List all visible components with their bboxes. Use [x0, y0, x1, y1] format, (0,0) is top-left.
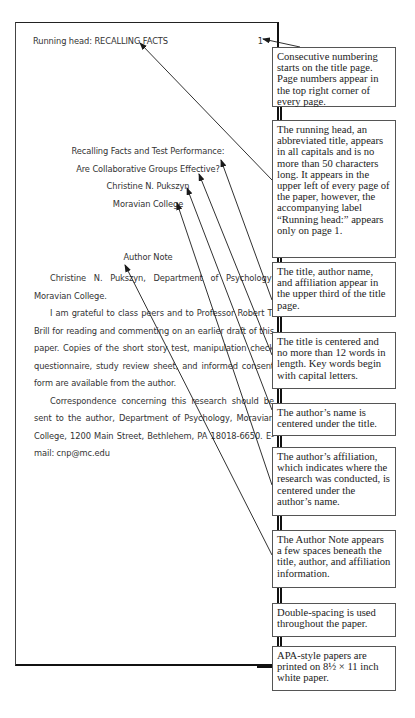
title-page: Running head: RECALLING FACTS 1 Recallin… [15, 22, 279, 666]
callout-paper-size: APA-style papers are printed on 8½ × 11 … [272, 646, 396, 691]
connector-line [280, 636, 282, 646]
callout-page-numbering: Consecutive numbering starts on the titl… [272, 47, 396, 107]
callout-double-spacing: Double-spacing is used throughout the pa… [272, 603, 396, 637]
connector-line [280, 316, 282, 332]
callout-upper-third: The title, author name, and affiliation … [272, 262, 396, 317]
author-note-heading: Author Note [16, 252, 280, 262]
author-affiliation: Moravian College [16, 196, 280, 214]
author-note-body: Christine N. Pukszyn, Department of Psyc… [34, 270, 274, 463]
running-head: Running head: RECALLING FACTS [33, 36, 168, 46]
title-line-1: Recalling Facts and Test Performance: [16, 143, 280, 161]
connector-line [280, 435, 282, 447]
connector-line [280, 587, 282, 603]
title-line-2: Are Collaborative Groups Effective? [16, 161, 280, 179]
connector-line [280, 515, 282, 530]
author-note-paragraph: Christine N. Pukszyn, Department of Psyc… [34, 270, 274, 305]
callout-affiliation: The author’s affiliation, which indicate… [272, 447, 396, 516]
title-block: Recalling Facts and Test Performance: Ar… [16, 143, 280, 213]
callout-running-head: The running head, an abbreviated title, … [272, 120, 396, 258]
connector-line [280, 388, 282, 403]
callout-author-note: The Author Note appears a few spaces ben… [272, 530, 396, 588]
callout-title-centered: The title is centered and no more than 1… [272, 332, 396, 389]
author-name: Christine N. Pukszyn [16, 178, 280, 196]
page-number: 1 [258, 36, 263, 46]
author-note-paragraph: Correspondence concerning this research … [34, 393, 274, 463]
callout-author-name: The author’s name is centered under the … [272, 403, 396, 436]
connector-line [280, 106, 282, 120]
author-note-paragraph: I am grateful to class peers and to Prof… [34, 305, 274, 393]
